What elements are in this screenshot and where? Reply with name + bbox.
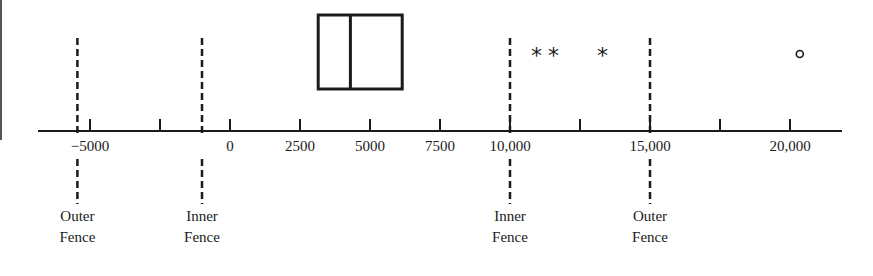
boxplot-chart: −5000025005000750010,00015,00020,000 Out… — [0, 0, 873, 276]
fence-label-upper-inner: Inner — [494, 208, 526, 224]
outlier-mild: * — [531, 43, 542, 68]
x-tick-label: 10,000 — [489, 138, 530, 154]
x-tick-label: 20,000 — [769, 138, 810, 154]
box-iqr — [318, 15, 402, 89]
boxplot-figure: −5000025005000750010,00015,00020,000 Out… — [0, 0, 873, 276]
fence-label-upper-outer: Outer — [633, 208, 667, 224]
x-tick-label: 5000 — [355, 138, 385, 154]
outlier-extreme — [796, 51, 803, 58]
x-tick-label: 15,000 — [629, 138, 670, 154]
outlier-mild: * — [548, 43, 559, 68]
x-tick-label: 2500 — [285, 138, 315, 154]
fence-label-upper-outer: Fence — [632, 229, 668, 245]
fence-label-lower-outer: Fence — [59, 229, 95, 245]
x-tick-label: 0 — [226, 138, 234, 154]
fence-label-lower-inner: Fence — [184, 229, 220, 245]
fence-label-upper-inner: Fence — [492, 229, 528, 245]
x-tick-label: 7500 — [425, 138, 455, 154]
fence-label-lower-outer: Outer — [60, 208, 94, 224]
fence-label-lower-inner: Inner — [186, 208, 218, 224]
page-edge — [0, 0, 2, 140]
x-tick-label: −5000 — [71, 138, 109, 154]
outlier-mild: * — [597, 43, 608, 68]
